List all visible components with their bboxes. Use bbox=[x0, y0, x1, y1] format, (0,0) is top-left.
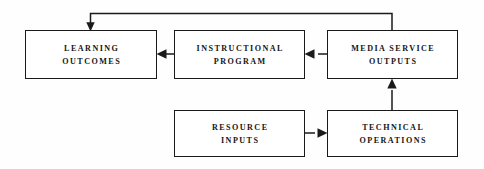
node-resource-inputs-line1: RESOURCE bbox=[210, 121, 268, 134]
node-technical-operations[interactable]: TECHNICAL OPERATIONS bbox=[327, 110, 458, 157]
node-learning-outcomes[interactable]: LEARNING OUTCOMES bbox=[25, 30, 157, 79]
node-learning-outcomes-line1: LEARNING bbox=[63, 42, 120, 55]
arrowhead-left-into-learning-outcomes bbox=[157, 49, 167, 58]
edge-media-feedback-to-learning bbox=[86, 14, 392, 32]
node-media-service-outputs-line1: MEDIA SERVICE bbox=[350, 42, 435, 55]
edge-media-feedback-path bbox=[91, 14, 393, 31]
node-instructional-program[interactable]: INSTRUCTIONAL PROGRAM bbox=[174, 30, 305, 79]
node-resource-inputs[interactable]: RESOURCE INPUTS bbox=[174, 110, 305, 157]
arrowhead-left-into-instructional-program bbox=[305, 49, 315, 58]
flow-diagram-canvas: LEARNING OUTCOMES INSTRUCTIONAL PROGRAM … bbox=[0, 0, 484, 169]
edge-media-to-instructional bbox=[305, 49, 328, 58]
node-instructional-program-line1: INSTRUCTIONAL bbox=[195, 42, 284, 55]
node-technical-operations-line1: TECHNICAL bbox=[361, 121, 425, 134]
node-resource-inputs-line2: INPUTS bbox=[220, 134, 260, 147]
node-media-service-outputs[interactable]: MEDIA SERVICE OUTPUTS bbox=[327, 30, 458, 79]
arrowhead-up-into-media-service-outputs bbox=[387, 79, 396, 89]
edge-instructional-to-learning bbox=[157, 49, 175, 58]
node-technical-operations-line2: OPERATIONS bbox=[358, 134, 427, 147]
node-instructional-program-line2: PROGRAM bbox=[212, 55, 266, 68]
edge-resource-to-technical bbox=[305, 128, 328, 137]
edge-technical-to-media bbox=[387, 79, 396, 111]
node-learning-outcomes-line2: OUTCOMES bbox=[61, 55, 121, 68]
arrowhead-right-into-technical-operations bbox=[318, 128, 328, 137]
node-media-service-outputs-line2: OUTPUTS bbox=[368, 55, 418, 68]
